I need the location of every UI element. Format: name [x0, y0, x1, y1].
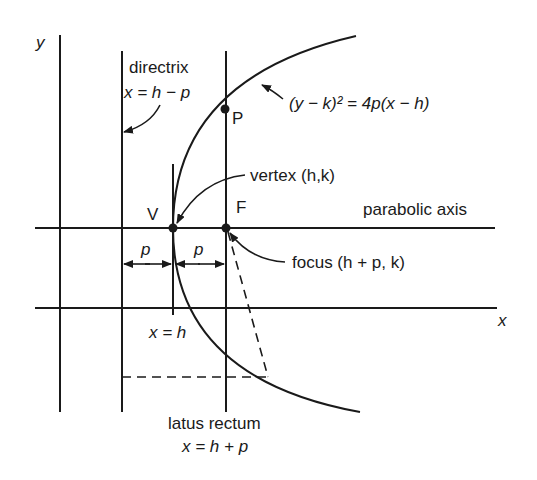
- parabolic-axis-label: parabolic axis: [363, 200, 467, 219]
- y-axis-label: y: [35, 33, 46, 52]
- p-right-label: p: [193, 240, 203, 259]
- parabola-equation: (y − k)² = 4p(x − h): [289, 94, 429, 113]
- directrix-callout-arrow: [124, 105, 160, 132]
- directrix-equation: x = h − p: [123, 83, 190, 102]
- point-p-label: P: [232, 109, 243, 128]
- focus-label: focus (h + p, k): [292, 253, 405, 272]
- parabola-diagram: y x directrix x = h − p P (y − k)² = 4p(…: [0, 0, 537, 480]
- vertex-callout-arrow: [177, 175, 245, 223]
- equation-callout-arrow: [262, 85, 283, 99]
- vertex-dot: [169, 224, 178, 233]
- directrix-title: directrix: [129, 58, 189, 77]
- focus-dot: [222, 224, 231, 233]
- vertex-label: vertex (h,k): [250, 166, 335, 185]
- x-equals-h-label: x = h: [148, 323, 186, 342]
- x-axis-label: x: [497, 311, 507, 330]
- focus-point-label: F: [236, 198, 246, 217]
- focus-callout-arrow: [230, 233, 285, 262]
- focal-radius-dashed: [228, 232, 268, 377]
- vertex-point-label: V: [147, 205, 159, 224]
- latus-rectum-title: latus rectum: [168, 414, 261, 433]
- parabola-curve: [173, 36, 360, 412]
- point-p-dot: [221, 105, 230, 114]
- latus-rectum-equation: x = h + p: [181, 437, 248, 456]
- p-left-label: p: [140, 240, 150, 259]
